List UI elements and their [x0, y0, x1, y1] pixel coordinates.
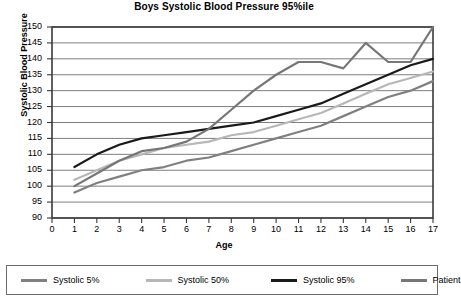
y-tick-label: 135: [8, 69, 42, 79]
x-tick-label: 2: [87, 224, 107, 234]
x-tick-label: 13: [333, 224, 353, 234]
legend-label: Systolic 50%: [178, 275, 230, 285]
x-tick-label: 4: [132, 224, 152, 234]
x-tick-label: 1: [64, 224, 84, 234]
legend-item-0: Systolic 5%: [21, 275, 100, 285]
x-tick-label: 15: [378, 224, 398, 234]
legend-swatch-icon: [271, 279, 297, 282]
legend-swatch-icon: [401, 279, 427, 282]
x-tick-label: 9: [244, 224, 264, 234]
x-tick-label: 8: [221, 224, 241, 234]
x-tick-label: 3: [109, 224, 129, 234]
legend-label: Systolic 95%: [303, 275, 355, 285]
x-tick-label: 5: [154, 224, 174, 234]
plot-area: [0, 0, 448, 260]
y-tick-label: 90: [8, 212, 42, 222]
y-tick-label: 95: [8, 196, 42, 206]
legend-swatch-icon: [146, 279, 172, 282]
x-tick-label: 6: [176, 224, 196, 234]
x-tick-label: 12: [311, 224, 331, 234]
legend-item-2: Systolic 95%: [271, 275, 355, 285]
legend-label: Patient: [433, 275, 461, 285]
legend-swatch-icon: [21, 279, 47, 282]
y-tick-label: 105: [8, 164, 42, 174]
x-tick-label: 16: [401, 224, 421, 234]
y-tick-label: 150: [8, 21, 42, 31]
y-tick-label: 125: [8, 101, 42, 111]
y-tick-label: 115: [8, 132, 42, 142]
legend-label: Systolic 5%: [53, 275, 100, 285]
legend-item-1: Systolic 50%: [146, 275, 230, 285]
y-tick-label: 140: [8, 53, 42, 63]
x-tick-label: 11: [289, 224, 309, 234]
x-tick-label: 17: [423, 224, 443, 234]
x-tick-label: 10: [266, 224, 286, 234]
x-tick-label: 7: [199, 224, 219, 234]
y-tick-label: 100: [8, 180, 42, 190]
y-tick-label: 120: [8, 117, 42, 127]
legend-item-3: Patient: [401, 275, 461, 285]
y-tick-label: 110: [8, 148, 42, 158]
chart-legend: Systolic 5%Systolic 50%Systolic 95%Patie…: [6, 265, 438, 295]
x-tick-label: 14: [356, 224, 376, 234]
y-tick-label: 145: [8, 37, 42, 47]
x-tick-label: 0: [42, 224, 62, 234]
y-tick-label: 130: [8, 85, 42, 95]
